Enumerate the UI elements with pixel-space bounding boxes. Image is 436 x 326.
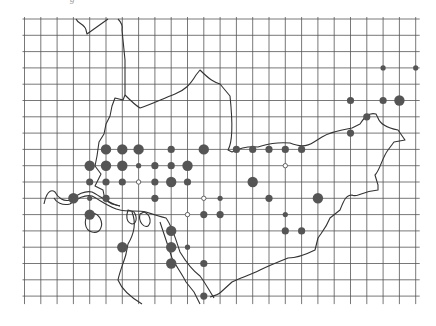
filled-dot-marker <box>282 227 289 234</box>
filled-dot-marker <box>117 144 127 154</box>
filled-dot-marker <box>217 211 224 218</box>
filled-dot-marker <box>265 146 272 153</box>
filled-dot-marker <box>200 211 207 218</box>
filled-dot-marker <box>151 195 158 202</box>
open-dot-marker <box>136 180 140 184</box>
filled-dot-marker <box>199 144 209 154</box>
filled-dot-marker <box>168 146 175 153</box>
filled-dot-marker <box>282 146 289 153</box>
filled-dot-marker <box>249 146 256 153</box>
filled-dot-marker <box>102 195 109 202</box>
open-dot-marker <box>283 164 287 168</box>
filled-dot-marker <box>381 65 386 70</box>
open-dot-marker <box>185 212 189 216</box>
filled-dot-marker <box>233 146 240 153</box>
filled-dot-marker <box>413 65 418 70</box>
filled-dot-marker <box>185 245 190 250</box>
filled-dot-marker <box>85 161 95 171</box>
filled-dot-marker <box>218 196 223 201</box>
filled-dot-marker <box>87 196 92 201</box>
filled-dot-marker <box>101 144 111 154</box>
filled-dot-marker <box>117 242 127 252</box>
distribution-map <box>0 0 436 326</box>
filled-dot-marker <box>394 95 404 105</box>
filled-dot-marker <box>166 226 176 236</box>
filled-dot-marker <box>182 161 192 171</box>
filled-dot-marker <box>347 97 354 104</box>
filled-dot-marker <box>85 209 95 219</box>
filled-dot-marker <box>184 178 191 185</box>
filled-dot-marker <box>248 177 258 187</box>
filled-dot-marker <box>133 144 143 154</box>
filled-dot-marker <box>265 195 272 202</box>
filled-dot-marker <box>166 242 176 252</box>
filled-dot-marker <box>347 130 354 137</box>
filled-dot-marker <box>68 193 78 203</box>
filled-dot-marker <box>136 163 141 168</box>
filled-dot-marker <box>380 97 387 104</box>
map-grid <box>23 17 420 304</box>
filled-dot-marker <box>101 161 111 171</box>
filled-dot-marker <box>298 227 305 234</box>
filled-dot-marker <box>313 193 323 203</box>
filled-dot-marker <box>363 113 370 120</box>
filled-dot-marker <box>298 146 305 153</box>
filled-dot-marker <box>102 178 109 185</box>
filled-dot-marker <box>166 177 176 187</box>
open-dot-marker <box>202 196 206 200</box>
filled-dot-marker <box>283 212 288 217</box>
filled-dot-marker <box>168 162 175 169</box>
filled-dot-marker <box>86 178 93 185</box>
filled-dot-marker <box>166 258 176 268</box>
filled-dot-marker <box>200 293 207 300</box>
filled-dot-marker <box>151 162 158 169</box>
filled-dot-marker <box>119 178 126 185</box>
filled-dot-marker <box>151 178 158 185</box>
filled-dot-marker <box>117 161 127 171</box>
filled-dot-marker <box>200 260 207 267</box>
